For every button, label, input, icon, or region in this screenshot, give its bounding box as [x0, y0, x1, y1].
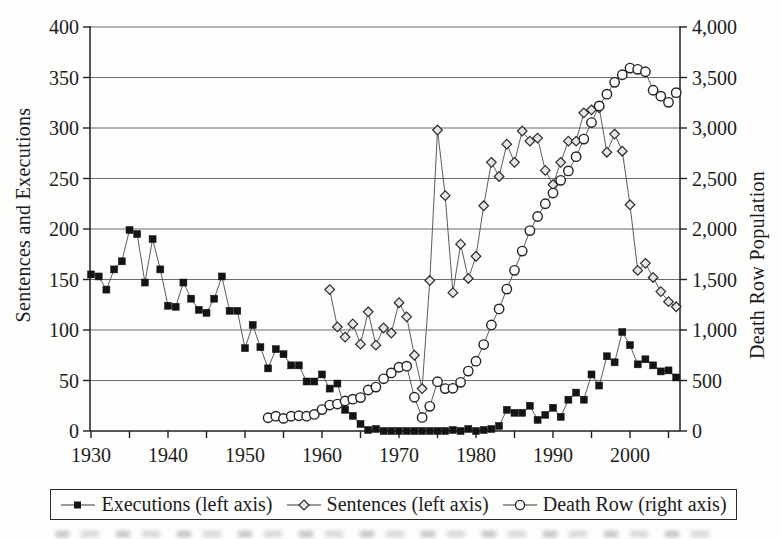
filled-square-marker [280, 351, 287, 358]
open-circle-marker [402, 361, 411, 370]
filled-square-marker [141, 279, 148, 286]
open-circle-marker [494, 304, 503, 313]
filled-square-marker [88, 271, 95, 278]
filled-square-marker [211, 295, 218, 302]
legend-item-sentences: Sentences (left axis) [286, 493, 489, 516]
filled-square-marker [195, 306, 202, 313]
open-diamond-marker [656, 287, 666, 297]
open-diamond-marker [618, 146, 628, 156]
open-circle-marker [464, 366, 473, 375]
open-diamond-marker [664, 297, 674, 307]
right-tick-label: 3,000 [692, 117, 737, 139]
filled-square-marker [295, 362, 302, 369]
open-diamond-marker [440, 191, 450, 201]
filled-square-marker [426, 428, 433, 435]
open-circle-marker [471, 357, 480, 366]
open-diamond-marker [448, 288, 458, 298]
left-tick-label: 250 [49, 168, 79, 190]
open-circle-marker [664, 98, 673, 107]
open-circle-marker [618, 70, 627, 79]
open-diamond-marker [356, 339, 366, 349]
open-circle-marker [502, 284, 511, 293]
left-tick-label: 400 [49, 16, 79, 38]
left-tick-label: 200 [49, 218, 79, 240]
filled-square-marker [434, 428, 441, 435]
open-diamond-marker [417, 384, 427, 394]
open-diamond-marker [556, 158, 566, 168]
filled-square-marker [480, 426, 487, 433]
open-circle-marker [571, 152, 580, 161]
filled-square-marker [442, 428, 449, 435]
filled-square-marker [180, 279, 187, 286]
filled-square-marker [257, 344, 264, 351]
open-diamond-marker [433, 125, 443, 135]
filled-square-marker [565, 396, 572, 403]
open-circle-marker [548, 188, 557, 197]
x-tick-label: 1990 [533, 444, 573, 466]
open-circle-marker [487, 320, 496, 329]
right-tick-label: 2,500 [692, 168, 737, 190]
open-circle-marker [533, 212, 542, 221]
open-circle-marker [356, 393, 365, 402]
open-diamond-marker [502, 139, 512, 149]
filled-square-marker [611, 359, 618, 366]
x-tick-label: 1980 [456, 444, 496, 466]
filled-square-marker [218, 273, 225, 280]
open-circle-marker [564, 166, 573, 175]
open-diamond-marker [348, 319, 358, 329]
open-circle-marker [479, 340, 488, 349]
filled-square-marker [342, 406, 349, 413]
filled-square-marker [319, 371, 326, 378]
open-diamond-marker [510, 158, 520, 168]
filled-square-marker [473, 428, 480, 435]
legend-label-executions: Executions (left axis) [101, 493, 272, 516]
open-circle-marker [425, 402, 434, 411]
legend-label-death-row: Death Row (right axis) [543, 493, 727, 516]
filled-square-marker [503, 406, 510, 413]
right-tick-label: 3,500 [692, 67, 737, 89]
x-tick-label: 1950 [225, 444, 265, 466]
filled-square-marker [172, 303, 179, 310]
open-circle-marker [433, 377, 442, 386]
left-tick-label: 150 [49, 269, 79, 291]
filled-square-marker [465, 425, 472, 432]
filled-square-marker [619, 329, 626, 336]
filled-square-marker [134, 231, 141, 238]
filled-square-marker [588, 371, 595, 378]
open-circle-marker [610, 78, 619, 87]
death-penalty-chart-figure: 05010015020025030035040005001,0001,5002,… [0, 0, 781, 539]
open-circle-marker [556, 176, 565, 185]
open-circle-marker [587, 118, 596, 127]
left-tick-label: 0 [69, 420, 79, 442]
open-diamond-marker [325, 285, 335, 295]
x-tick-label: 1940 [148, 444, 188, 466]
legend-label-sentences: Sentences (left axis) [327, 493, 489, 516]
filled-square-marker [603, 353, 610, 360]
open-diamond-marker [371, 340, 381, 350]
open-circle-marker [456, 378, 465, 387]
right-tick-label: 0 [692, 420, 702, 442]
scan-artifact [55, 531, 715, 537]
filled-square-marker [657, 368, 664, 375]
chart-legend: Executions (left axis) Sentences (left a… [50, 489, 737, 520]
filled-square-marker [488, 425, 495, 432]
filled-square-marker [103, 286, 110, 293]
filled-square-marker [334, 380, 341, 387]
filled-square-marker [165, 302, 172, 309]
open-diamond-marker [394, 298, 404, 308]
filled-square-marker [519, 409, 526, 416]
open-circle-marker [417, 413, 426, 422]
open-circle-marker [510, 266, 519, 275]
x-tick-label: 1930 [71, 444, 111, 466]
filled-square-marker [457, 428, 464, 435]
filled-square-marker [226, 307, 233, 314]
filled-square-marker [573, 389, 580, 396]
filled-square-marker [419, 428, 426, 435]
open-diamond-marker [479, 201, 489, 211]
filled-square-marker [234, 307, 241, 314]
open-diamond-marker [425, 276, 435, 286]
open-diamond-marker-icon [286, 499, 322, 511]
open-circle-marker [595, 101, 604, 110]
filled-square-marker [326, 385, 333, 392]
filled-square-marker [349, 412, 356, 419]
